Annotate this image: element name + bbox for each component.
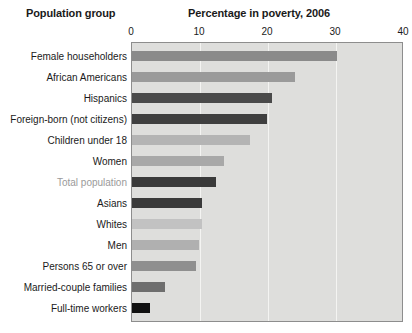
bar [132, 282, 165, 292]
category-label: Children under 18 [0, 135, 127, 146]
bar [132, 51, 337, 61]
category-label: Female householders [0, 51, 127, 62]
category-label: Men [0, 240, 127, 251]
category-label: Persons 65 or over [0, 261, 127, 272]
bar [132, 261, 196, 271]
poverty-bar-chart: Population group Percentage in poverty, … [0, 0, 412, 333]
bar [132, 177, 216, 187]
plot-area [131, 42, 403, 322]
bar-series [132, 43, 402, 321]
category-label: Married-couple families [0, 282, 127, 293]
bar [132, 303, 150, 313]
x-tick-label-20: 20 [261, 26, 272, 37]
category-label: Whites [0, 219, 127, 230]
chart-title: Percentage in poverty, 2006 [188, 7, 330, 19]
x-tick-label-30: 30 [329, 26, 340, 37]
category-label: Foreign-born (not citizens) [0, 114, 127, 125]
bar [132, 93, 272, 103]
category-label: Hispanics [0, 93, 127, 104]
category-label: Women [0, 156, 127, 167]
bar [132, 156, 224, 166]
category-label: African Americans [0, 72, 127, 83]
bar [132, 135, 250, 145]
category-label: Full-time workers [0, 303, 127, 314]
bar [132, 198, 202, 208]
bar [132, 219, 202, 229]
x-tick-label-10: 10 [193, 26, 204, 37]
population-group-header: Population group [26, 7, 115, 19]
category-labels: Female householdersAfrican AmericansHisp… [0, 42, 127, 322]
category-label: Asians [0, 198, 127, 209]
category-label: Total population [0, 177, 127, 188]
x-tick-label-40: 40 [397, 26, 408, 37]
x-tick-label-0: 0 [128, 26, 134, 37]
bar [132, 240, 199, 250]
bar [132, 72, 295, 82]
bar [132, 114, 267, 124]
x-axis: 010203040 [131, 26, 403, 42]
